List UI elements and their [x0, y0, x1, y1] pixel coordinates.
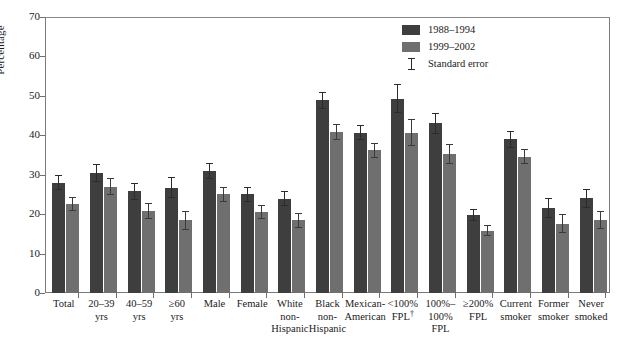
x-axis-label: Neversmoked [566, 298, 616, 323]
bar-1999-2002 [594, 220, 607, 293]
x-axis-label-line: Hispanic [303, 323, 353, 336]
bar-group [277, 17, 306, 293]
bar-group [164, 17, 193, 293]
bar-1999-2002 [255, 212, 268, 293]
bar-1999-2002 [481, 231, 494, 293]
bar-1988-1994 [467, 215, 480, 293]
bar-1988-1994 [542, 208, 555, 293]
y-tick-label: 60 [14, 50, 40, 61]
error-bar [397, 84, 398, 112]
error-bar [209, 163, 210, 179]
bar-1988-1994 [316, 100, 329, 293]
error-bar [58, 175, 59, 190]
bar-1999-2002 [405, 133, 418, 293]
bar-1988-1994 [203, 171, 216, 293]
bar-group [315, 17, 344, 293]
y-tick-label: 50 [14, 90, 40, 101]
bar-1999-2002 [179, 220, 192, 293]
error-bar [548, 198, 549, 218]
bar-1988-1994 [128, 191, 141, 293]
error-bar [600, 211, 601, 229]
bar-group [202, 17, 231, 293]
legend-label: 1999–2002 [428, 40, 475, 53]
bar-1988-1994 [580, 198, 593, 293]
bar-group [240, 17, 269, 293]
error-bar [510, 131, 511, 148]
bar-1988-1994 [354, 133, 367, 293]
error-bar [473, 209, 474, 221]
y-tick-label: 30 [14, 169, 40, 180]
error-bar [223, 187, 224, 202]
error-bar [148, 203, 149, 219]
chart-canvas: Percentage 010203040506070 Total20–39yrs… [0, 0, 629, 346]
bar-1999-2002 [292, 220, 305, 293]
error-bar [261, 205, 262, 218]
bar-1999-2002 [142, 211, 155, 293]
bar-1988-1994 [278, 199, 291, 293]
error-bar [336, 124, 337, 140]
legend: 1988–19941999–2002Standard error [402, 22, 602, 73]
x-axis-labels: Total20–39yrs40–59yrs≥60yrsMaleFemaleWhi… [45, 298, 610, 346]
error-bar [284, 191, 285, 206]
legend-item: 1988–1994 [402, 22, 602, 37]
error-bar-icon [402, 58, 420, 70]
x-axis-label-line: yrs [152, 311, 202, 324]
bar-1999-2002 [66, 204, 79, 293]
bar-1988-1994 [165, 188, 178, 293]
error-bar [298, 213, 299, 227]
error-bar [374, 143, 375, 158]
y-tick-label: 0 [14, 287, 40, 298]
error-bar [435, 113, 436, 134]
bar-group [89, 17, 118, 293]
bar-1999-2002 [217, 194, 230, 293]
bar-1999-2002 [368, 150, 381, 293]
bar-group [51, 17, 80, 293]
bar-1999-2002 [518, 157, 531, 293]
y-tick-label: 40 [14, 129, 40, 140]
bar-1988-1994 [504, 139, 517, 293]
bar-1999-2002 [556, 224, 569, 293]
bar-1988-1994 [429, 123, 442, 293]
bar-1988-1994 [241, 194, 254, 293]
error-bar [524, 149, 525, 165]
legend-item: Standard error [402, 56, 602, 71]
bar-1999-2002 [104, 187, 117, 293]
error-bar [134, 183, 135, 200]
error-bar [247, 187, 248, 201]
error-bar [171, 177, 172, 198]
error-bar [110, 178, 111, 194]
bar-1988-1994 [90, 173, 103, 293]
error-bar [586, 189, 587, 208]
y-tick-label: 20 [14, 208, 40, 219]
legend-swatch [402, 25, 420, 35]
error-bar [562, 214, 563, 233]
bar-1999-2002 [443, 154, 456, 293]
x-axis-label-line: Never [566, 298, 616, 311]
x-axis-label-line: FPL [416, 323, 466, 336]
error-bar [487, 225, 488, 236]
error-bar [322, 92, 323, 109]
bar-group [353, 17, 382, 293]
legend-label: Standard error [428, 57, 488, 70]
legend-item: 1999–2002 [402, 39, 602, 54]
y-tick-mark [40, 293, 45, 294]
bar-1988-1994 [391, 99, 404, 293]
legend-swatch [402, 42, 420, 52]
legend-label: 1988–1994 [428, 23, 475, 36]
y-tick-label: 10 [14, 248, 40, 259]
y-tick-label: 70 [14, 11, 40, 22]
bar-group [127, 17, 156, 293]
error-bar [185, 211, 186, 230]
error-bar [411, 119, 412, 146]
error-bar [72, 197, 73, 211]
x-axis-label-line: smoked [566, 311, 616, 324]
error-bar [96, 164, 97, 181]
error-bar [360, 125, 361, 141]
bar-1988-1994 [52, 183, 65, 293]
bar-1999-2002 [330, 132, 343, 293]
error-bar [449, 144, 450, 163]
